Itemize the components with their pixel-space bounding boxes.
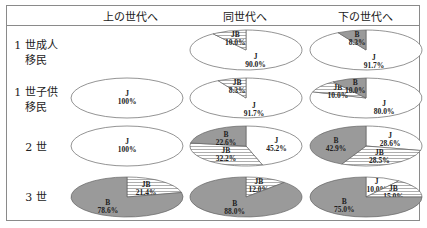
row-label-line2: 移民 — [12, 53, 60, 68]
header-divider — [6, 25, 420, 26]
pie-slice-b — [190, 177, 302, 217]
slice-value: 100% — [118, 145, 137, 154]
slice-value: 22.6% — [216, 138, 237, 147]
pie-chart: J10.0%JB15.0%B75.0% — [308, 175, 424, 219]
row-label-line1: 1 世成人 — [12, 38, 60, 53]
pie-chart: J28.6%JB28.5%B42.9% — [308, 124, 424, 168]
row-label-gen2: 2 世 — [12, 140, 60, 155]
pie-chart: JB12.0%B88.0% — [188, 175, 304, 219]
slice-value: 10.0% — [225, 38, 246, 47]
slice-value: 32.2% — [216, 154, 237, 163]
pie-chart: J45.2%JB32.2%B22.6% — [188, 124, 304, 168]
slice-value: 90.0% — [245, 60, 266, 69]
row-label-line1: 2 世 — [12, 140, 60, 155]
slice-value: 45.2% — [266, 144, 287, 153]
slice-value: 75.0% — [334, 205, 355, 214]
pie-chart: J91.7%JB8.3% — [188, 76, 304, 120]
slice-value: 100% — [118, 97, 137, 106]
row-label-gen1-child: 1 世子供 移民 — [12, 85, 60, 115]
row-label-gen1-adult: 1 世成人 移民 — [12, 38, 60, 68]
slice-value: 28.6% — [380, 139, 401, 148]
row-label-line1: 1 世子供 — [12, 85, 60, 100]
slice-value: 88.0% — [224, 207, 245, 216]
row-label-gen3: 3 世 — [12, 190, 60, 205]
slice-value: 91.7% — [364, 61, 385, 70]
slice-value: 8.3% — [349, 38, 366, 47]
pie-chart: J100% — [69, 76, 185, 120]
slice-value: 10.0% — [345, 86, 366, 95]
slice-value: 78.6% — [98, 206, 119, 215]
pie-chart: J100% — [69, 124, 185, 168]
pie-chart: J80.0%JB10.0%B10.0% — [308, 76, 424, 120]
column-header-upper: 上の世代へ — [70, 8, 190, 24]
pie-chart: J90.0%JB10.0% — [188, 28, 304, 72]
slice-value: 28.5% — [369, 156, 390, 165]
slice-value: 8.3% — [229, 86, 246, 95]
column-header-lower: 下の世代へ — [305, 8, 425, 24]
pie-chart: J91.7%B8.3% — [308, 28, 424, 72]
slice-value: 91.7% — [244, 109, 265, 118]
column-header-same: 同世代へ — [185, 8, 305, 24]
slice-value: 80.0% — [374, 107, 395, 116]
row-label-line1: 3 世 — [12, 190, 60, 205]
pie-chart: JB21.4%B78.6% — [69, 175, 185, 219]
row-label-line2: 移民 — [12, 100, 60, 115]
slice-value: 42.9% — [326, 144, 347, 153]
